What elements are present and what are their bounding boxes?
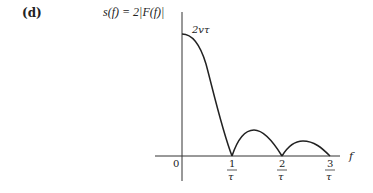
x-axis-label: f bbox=[348, 150, 355, 163]
svg-text:2: 2 bbox=[279, 158, 285, 169]
side-lobe-2-curve bbox=[282, 141, 330, 156]
tick-1-over-tau: 1 τ bbox=[227, 158, 237, 182]
main-lobe-curve bbox=[182, 34, 232, 156]
svg-text:τ: τ bbox=[278, 171, 284, 182]
peak-label: 2vτ bbox=[191, 24, 210, 35]
svg-text:τ: τ bbox=[326, 171, 332, 182]
svg-text:τ: τ bbox=[228, 171, 234, 182]
svg-text:1: 1 bbox=[229, 158, 235, 169]
spectrum-plot: 2vτ 0 f 1 τ 2 τ 3 τ bbox=[0, 0, 373, 193]
side-lobe-1-curve bbox=[232, 130, 282, 156]
origin-label: 0 bbox=[173, 158, 179, 169]
svg-text:3: 3 bbox=[327, 158, 333, 169]
tick-3-over-tau: 3 τ bbox=[325, 158, 335, 182]
tick-2-over-tau: 2 τ bbox=[277, 158, 287, 182]
